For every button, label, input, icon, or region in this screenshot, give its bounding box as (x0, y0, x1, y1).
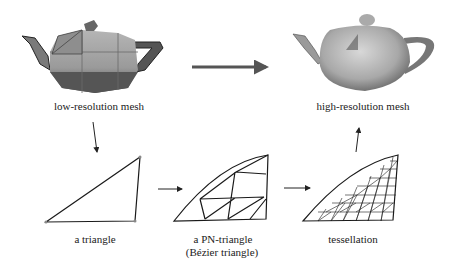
tessellation-mesh (303, 155, 398, 221)
low-res-teapot-icon (22, 20, 163, 93)
simple-triangle (45, 156, 142, 224)
pn-label-line2: (Bézier triangle) (172, 246, 272, 259)
low-res-label: low-resolution mesh (44, 100, 154, 113)
arrow-up (356, 128, 359, 152)
tessellation-label: tessellation (318, 233, 388, 246)
high-res-teapot-icon (293, 14, 434, 91)
triangle-label: a triangle (60, 233, 130, 246)
arrow-down (93, 122, 97, 152)
high-res-label: high-resolution mesh (308, 100, 418, 113)
pn-label-line1: a PN-triangle (178, 233, 268, 246)
diagram-canvas (0, 0, 458, 268)
pn-triangle (174, 155, 268, 221)
